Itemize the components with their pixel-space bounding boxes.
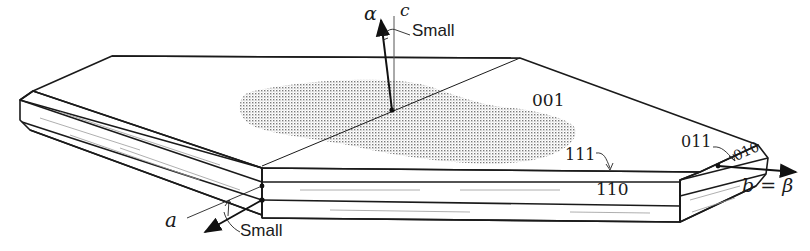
face-leaders [596,147,735,170]
b-beta-axis-label: b = β [742,176,793,195]
face-label-011: 011 [681,134,712,150]
front-side-facets [262,168,700,222]
small-annotation-bottom: Small [240,222,283,239]
small-annotation-top: Small [412,22,455,39]
shaded-region [240,80,576,164]
crystal-diagram: α c Small 001 011 111 110 010 b = β a Sm… [0,0,810,251]
c-axis-label: c [400,2,410,19]
face-label-111: 111 [565,147,596,163]
crystal-drawing [0,0,810,251]
a-axis-label: a [165,210,177,230]
alpha-axis-label: α [364,4,377,23]
face-label-001: 001 [532,92,564,109]
face-label-110: 110 [596,181,628,198]
